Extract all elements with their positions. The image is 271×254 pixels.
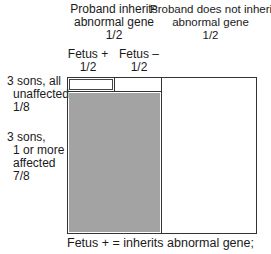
header-proband-not-inherit-prob: 1/2 <box>150 29 271 42</box>
header-proband-not-inherit-line1: Proband does not inherit <box>150 3 271 16</box>
header-fetus-negative: Fetus – 1/2 <box>115 48 163 74</box>
row-label-affected-prob: 7/8 <box>7 170 64 183</box>
affected-shaded-region <box>69 93 160 232</box>
row-label-unaffected-prob: 1/8 <box>7 101 69 114</box>
header-fetus-positive: Fetus + 1/2 <box>64 48 112 74</box>
inherit-divider-line <box>161 77 162 234</box>
row-label-unaffected: 3 sons, all unaffected 1/8 <box>7 75 69 114</box>
fetus-divider-line <box>114 77 115 92</box>
row-label-affected: 3 sons, 1 or more affected 7/8 <box>7 131 64 183</box>
header-proband-not-inherit-line2: abnormal gene <box>150 16 271 29</box>
unaffected-fetus-positive-cell <box>69 79 113 90</box>
header-fetus-negative-prob: 1/2 <box>115 61 163 74</box>
header-fetus-positive-prob: 1/2 <box>64 61 112 74</box>
caption: Fetus + = inherits abnormal gene; <box>67 237 254 250</box>
header-proband-not-inherit: Proband does not inherit abnormal gene 1… <box>150 3 271 42</box>
